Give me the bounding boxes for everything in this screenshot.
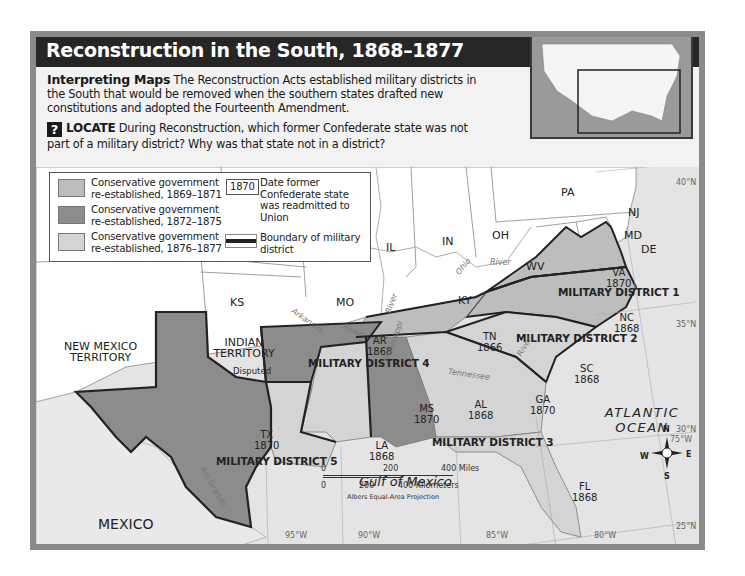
state-year: 1868 [572,492,597,503]
legend-date-sample: 1870 [226,179,259,195]
compass-s: S [664,471,670,482]
state-abbr: SC [574,363,599,374]
label-mo: MO [336,297,354,308]
compass-rose-icon [647,433,687,473]
state-abbr: TX [254,429,279,440]
compass-w: W [640,451,649,462]
label-indian-territory: INDIAN TERRITORY [211,337,277,359]
interpreting-maps-text: Interpreting Maps The Reconstruction Act… [47,73,487,115]
scale-miles-400: 400 Miles [441,464,479,473]
interpreting-maps-label: Interpreting Maps [47,72,170,87]
label-in: IN [442,236,453,247]
scale-km-200: 200 [359,481,374,490]
compass-n: N [663,424,670,435]
label-new-mexico-territory: NEW MEXICO TERRITORY [58,341,143,363]
locate-label: LOCATE [66,121,115,135]
lon-95-label: 95°W [285,531,307,540]
legend-swatch [58,233,85,251]
projection-label: Albers Equal-Area Projection [347,493,439,501]
legend-label: re-established, 1872–1875 [91,216,222,228]
state-al: AL1868 [468,399,493,421]
scale-miles-0: 0 [321,464,326,473]
legend-swatch [58,206,85,224]
label-nj: NJ [628,207,639,218]
scale-km-0: 0 [321,481,326,490]
state-ms: MS1870 [414,403,439,425]
legend-swatch [58,179,85,197]
state-fl: FL1868 [572,481,597,503]
state-la: LA1868 [369,440,394,462]
us-locator-svg [532,37,691,137]
map-title: Reconstruction in the South, 1868–1877 [46,39,464,61]
scale-miles-200: 200 [383,464,398,473]
question-icon: ? [47,122,62,137]
state-abbr: MS [414,403,439,414]
scale-km-400: 400 Kilometers [398,481,459,490]
label-wv: WV [526,261,544,272]
label-disputed: Disputed [233,366,271,377]
scale-line-km [323,477,403,478]
label-pa: PA [561,187,574,198]
map-frame: Reconstruction in the South, 1868–1877 I… [30,31,705,550]
legend-label: Conservative government [91,204,222,216]
label-il: IL [386,242,395,253]
state-abbr: GA [530,394,555,405]
legend-item-1869-1871: Conservative governmentre-established, 1… [58,177,222,200]
state-abbr: TN [477,331,502,342]
locate-question: ?LOCATE During Reconstruction, which for… [47,121,492,151]
state-tn: TN1866 [477,331,502,353]
scale-line-miles [323,475,453,476]
legend-label: Conservative government [91,177,222,189]
state-year: 1868 [468,410,493,421]
legend-label: re-established, 1876–1877 [91,243,222,255]
state-year: 1868 [574,374,599,385]
label-ky: KY [458,295,472,306]
map-panel: Reconstruction in the South, 1868–1877 I… [36,37,699,544]
state-year: 1870 [414,414,439,425]
state-year: 1870 [254,440,279,451]
state-abbr: NC [614,312,639,323]
state-ga: GA1870 [530,394,555,416]
label-md: MD [624,230,642,241]
state-sc: SC1868 [574,363,599,385]
legend-item-1872-1875: Conservative governmentre-established, 1… [58,204,222,227]
state-abbr: LA [369,440,394,451]
military-district-1-label: MILITARY DISTRICT 1 [558,286,679,298]
state-year: 1866 [477,342,502,353]
military-district-3-label: MILITARY DISTRICT 3 [432,436,553,448]
legend-boundary-text: Boundary of military district [260,232,365,255]
state-abbr: FL [572,481,597,492]
lon-90-label: 90°W [358,531,380,540]
legend-label: re-established, 1869–1871 [91,189,222,201]
legend-date-text: Date former Confederate state was readmi… [260,177,360,223]
military-district-4-label: MILITARY DISTRICT 4 [308,357,429,369]
legend-boundary-line-icon [226,235,256,247]
label-oh: OH [492,230,509,241]
lon-85-label: 85°W [486,531,508,540]
legend-item-1876-1877: Conservative governmentre-established, 1… [58,231,222,254]
label-ks: KS [230,297,244,308]
legend-label: Conservative government [91,231,222,243]
state-year: 1868 [369,451,394,462]
locator-inset-map [530,37,693,139]
label-de: DE [641,244,656,255]
lat-35-label: 35°N [676,320,696,329]
lat-40-label: 40°N [676,178,696,187]
state-year: 1870 [530,405,555,416]
label-mexico: MEXICO [98,519,153,530]
state-abbr: AL [468,399,493,410]
state-nc: NC1868 [614,312,639,334]
ohio-river-label-2: River [490,258,511,267]
lat-25-label: 25°N [676,522,696,531]
lon-80-label: 80°W [594,531,616,540]
military-district-2-label: MILITARY DISTRICT 2 [516,332,637,344]
state-abbr: VA [606,267,631,278]
compass-e: E [686,449,691,460]
scale-bar: 0 200 400 Miles 0 200 400 Kilometers Alb… [319,464,489,509]
map-legend: Conservative governmentre-established, 1… [49,172,371,262]
state-tx: TX1870 [254,429,279,451]
